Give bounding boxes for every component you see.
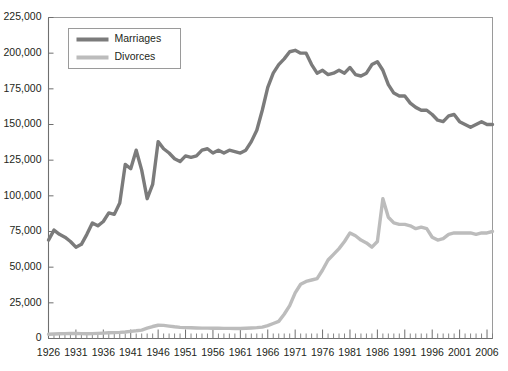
y-tick-label: 50,000 xyxy=(9,260,41,272)
y-tick-label: 200,000 xyxy=(4,46,42,58)
chart-canvas: 025,00050,00075,000100,000125,000150,000… xyxy=(0,0,508,371)
y-tick-label: 175,000 xyxy=(4,82,42,94)
x-tick-label: 1971 xyxy=(283,346,307,358)
legend-label-marriages: Marriages xyxy=(115,32,162,44)
y-tick-label: 150,000 xyxy=(4,117,42,129)
x-tick-label: 1931 xyxy=(64,346,88,358)
x-tick-label: 1951 xyxy=(174,346,198,358)
x-tick-label: 1976 xyxy=(311,346,335,358)
x-tick-label: 1936 xyxy=(92,346,116,358)
x-tick-label: 1961 xyxy=(229,346,253,358)
chart-legend: MarriagesDivorces xyxy=(69,29,181,69)
x-tick-label: 1986 xyxy=(366,346,390,358)
y-tick-label: 100,000 xyxy=(4,189,42,201)
line-chart-marriages-divorces: 025,00050,00075,000100,000125,000150,000… xyxy=(0,0,508,371)
y-tick-label: 225,000 xyxy=(4,10,42,22)
x-tick-label: 2001 xyxy=(448,346,472,358)
x-tick-label: 1996 xyxy=(421,346,445,358)
x-tick-label: 1926 xyxy=(37,346,61,358)
x-tick-label: 1946 xyxy=(146,346,170,358)
x-tick-label: 2006 xyxy=(475,346,499,358)
x-axis-tick-labels: 1926193119361941194619511956196119661971… xyxy=(37,346,499,358)
y-tick-label: 0 xyxy=(36,331,42,343)
y-tick-label: 25,000 xyxy=(9,296,41,308)
legend-label-divorces: Divorces xyxy=(115,50,156,62)
x-tick-label: 1991 xyxy=(393,346,417,358)
x-tick-label: 1981 xyxy=(338,346,362,358)
x-tick-label: 1941 xyxy=(119,346,143,358)
y-tick-label: 75,000 xyxy=(9,224,41,236)
x-tick-label: 1956 xyxy=(201,346,225,358)
x-tick-label: 1966 xyxy=(256,346,280,358)
y-tick-label: 125,000 xyxy=(4,153,42,165)
